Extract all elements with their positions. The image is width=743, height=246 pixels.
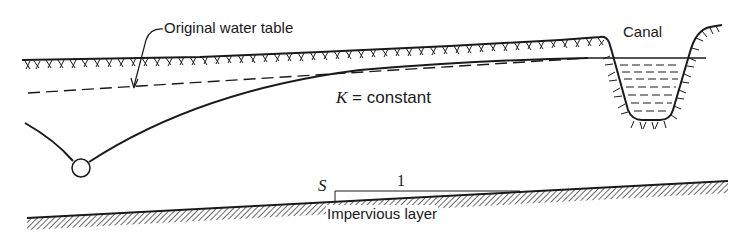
k-constant-text: = constant bbox=[347, 88, 431, 107]
impervious-layer-label: Impervious layer bbox=[326, 205, 438, 222]
well-icon bbox=[72, 159, 90, 177]
slope-run-label: 1 bbox=[397, 172, 405, 190]
canal bbox=[603, 25, 722, 129]
drawdown-curve bbox=[25, 58, 588, 162]
slope-s-label: S bbox=[318, 176, 327, 196]
k-symbol: K bbox=[336, 88, 347, 107]
ground-surface bbox=[22, 37, 609, 69]
diagram-canvas: Original water table Canal K = constant … bbox=[0, 0, 743, 246]
original-water-table-label: Original water table bbox=[164, 19, 293, 36]
k-constant-label: K = constant bbox=[336, 88, 431, 108]
original-water-table bbox=[28, 58, 588, 93]
canal-label: Canal bbox=[623, 23, 662, 40]
